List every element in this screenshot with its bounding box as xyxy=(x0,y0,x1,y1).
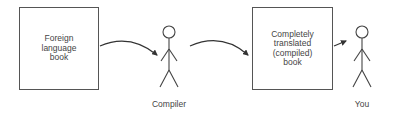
you-label: You xyxy=(342,99,382,109)
arrow-compiler-to-compiled-book xyxy=(190,41,248,55)
arrow-book-to-compiler xyxy=(100,41,157,55)
compiler-stick-figure-icon xyxy=(160,26,178,87)
compiler-label: Compiler xyxy=(139,99,199,109)
arrow-compiled-book-to-you xyxy=(334,41,346,46)
you-stick-figure-icon xyxy=(353,26,371,87)
diagram-connectors xyxy=(0,0,393,114)
